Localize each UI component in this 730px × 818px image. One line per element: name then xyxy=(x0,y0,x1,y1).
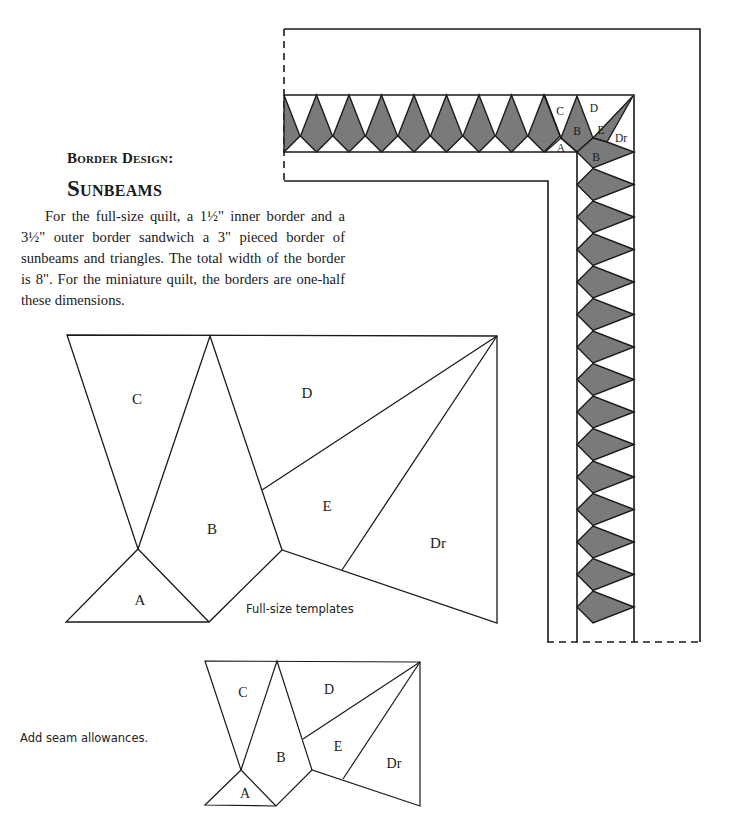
sunbeam-kite xyxy=(431,95,463,152)
corner-label-b-bottom: B xyxy=(592,151,600,163)
quilt-diagram: C D B E Dr A B C D E B Dr A C D E B Dr A xyxy=(0,0,730,818)
corner-label-e: E xyxy=(597,124,604,136)
sunbeam-kite xyxy=(577,169,634,201)
sunbeam-kite xyxy=(577,331,634,363)
mini-label-dr: Dr xyxy=(387,756,402,771)
corner-label-b-top: B xyxy=(573,125,581,137)
full-label-b: B xyxy=(207,521,217,537)
sunbeam-kite xyxy=(577,266,634,298)
pieced-band-outer xyxy=(284,95,634,642)
full-size-templates xyxy=(66,335,497,623)
full-size-labels: C D E B Dr A xyxy=(132,385,446,608)
mini-label-e: E xyxy=(334,739,343,754)
sunbeam-kite xyxy=(577,299,634,331)
corner-label-d: D xyxy=(590,102,598,114)
sunbeam-kite xyxy=(577,429,634,461)
seam-allowance-note: Add seam allowances. xyxy=(20,731,148,745)
sunbeam-kite xyxy=(577,364,634,396)
full-label-e: E xyxy=(322,498,331,514)
sunbeam-kite xyxy=(577,559,634,591)
mini-label-c: C xyxy=(238,685,247,700)
template-c-b-edge xyxy=(138,336,282,550)
section-kicker: Border Design: xyxy=(67,150,173,167)
sunbeam-kite xyxy=(463,95,495,152)
body-paragraph: For the full-size quilt, a 1½" inner bor… xyxy=(21,206,345,311)
template-e-dr-edge xyxy=(342,336,497,570)
corner-label-dr: Dr xyxy=(615,132,627,144)
horizontal-sunbeams xyxy=(284,95,560,152)
sunbeam-kite xyxy=(577,234,634,266)
full-label-c: C xyxy=(132,391,142,407)
sunbeam-kite xyxy=(398,95,430,152)
full-label-d: D xyxy=(302,385,313,401)
sunbeam-kite xyxy=(284,95,300,152)
mini-templates xyxy=(205,661,420,806)
mini-label-b: B xyxy=(276,750,285,765)
corner-label-c: C xyxy=(556,105,564,117)
mini-labels: C D E B Dr A xyxy=(238,682,401,801)
sunbeam-kite xyxy=(577,591,634,623)
sunbeam-kite xyxy=(577,526,634,558)
template-d-e-edge xyxy=(262,336,497,490)
full-label-dr: Dr xyxy=(430,535,446,551)
page-title: Sunbeams xyxy=(67,176,162,202)
sunbeam-kite xyxy=(577,396,634,428)
full-size-caption: Full-size templates xyxy=(246,602,354,616)
sunbeam-kite xyxy=(333,95,365,152)
mini-label-d: D xyxy=(324,682,334,697)
mini-template-e-dr-edge xyxy=(343,662,420,779)
sunbeam-kite xyxy=(366,95,398,152)
sunbeam-kite xyxy=(577,201,634,233)
sunbeam-kite xyxy=(301,95,333,152)
template-a-b-edge xyxy=(138,549,209,622)
full-label-a: A xyxy=(135,592,146,608)
vertical-sunbeams xyxy=(577,169,634,624)
sunbeam-kite xyxy=(577,461,634,493)
sunbeam-kite xyxy=(577,494,634,526)
sunbeam-kite xyxy=(496,95,528,152)
mini-label-a: A xyxy=(240,786,251,801)
mini-template-d-e-edge xyxy=(303,662,420,739)
corner-label-a: A xyxy=(557,142,566,154)
